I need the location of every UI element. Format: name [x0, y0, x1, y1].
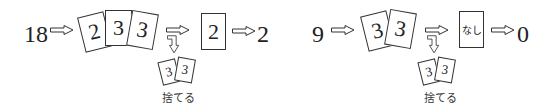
right-arrow-icon — [491, 25, 515, 35]
right-arrow-icon — [232, 26, 256, 36]
right-arrow-icon — [50, 25, 74, 35]
remaining-card: 2 — [201, 13, 226, 50]
discard-label: 捨てる — [424, 89, 457, 105]
output-number: 0 — [517, 22, 529, 46]
card-value: 2 — [86, 18, 103, 46]
hand-card: 3 — [126, 10, 159, 50]
discarded-card: 3 — [434, 57, 456, 84]
card-value: 3 — [113, 15, 124, 41]
down-arrow-icon — [427, 35, 442, 54]
right-arrow-icon — [331, 25, 355, 35]
card-value: 3 — [164, 63, 174, 80]
right-arrow-icon — [425, 25, 449, 35]
input-number: 18 — [24, 22, 48, 46]
right-arrow-icon — [166, 25, 190, 35]
card-value: なし — [462, 22, 482, 37]
output-number: 2 — [257, 22, 269, 46]
discarded-card: 3 — [174, 57, 196, 84]
card-value: 3 — [393, 15, 408, 43]
card-value: 3 — [424, 63, 434, 80]
card-value: 3 — [440, 62, 449, 79]
input-number: 9 — [312, 22, 324, 46]
card-value: 3 — [135, 16, 150, 44]
card-value: 2 — [208, 19, 219, 45]
remaining-card: なし — [459, 11, 484, 48]
hand-card: 3 — [384, 9, 417, 49]
discard-label: 捨てる — [162, 89, 195, 105]
down-arrow-icon — [167, 35, 182, 54]
card-value: 3 — [180, 62, 189, 79]
card-value: 3 — [369, 17, 386, 45]
